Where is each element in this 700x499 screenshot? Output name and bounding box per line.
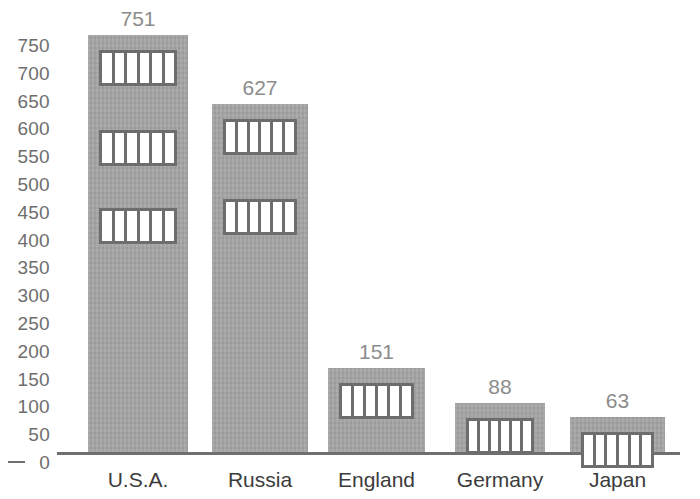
- window-pane: [115, 211, 125, 241]
- bar-value-label: 88: [455, 376, 545, 397]
- window-pane: [127, 53, 137, 83]
- window-pane: [102, 53, 112, 83]
- window-pane: [366, 386, 375, 416]
- y-axis-tick-labels: 7507006506005505004504003503002502001501…: [0, 0, 50, 499]
- window-pane: [152, 53, 162, 83]
- y-axis-tick-label: 350: [0, 258, 50, 277]
- window-pane: [642, 435, 651, 465]
- window-pane: [273, 122, 282, 152]
- y-axis-tick-label: 750: [0, 36, 50, 55]
- y-axis-tick-label: 300: [0, 286, 50, 305]
- prison-window-icon: [581, 432, 654, 468]
- y-axis-tick-label: 500: [0, 175, 50, 194]
- window-pane: [165, 211, 175, 241]
- y-axis-tick-label: 150: [0, 370, 50, 389]
- y-axis-tick-label: 450: [0, 203, 50, 222]
- y-axis-tick-label: 650: [0, 92, 50, 111]
- window-pane: [115, 53, 125, 83]
- window-pane: [165, 133, 175, 163]
- window-pane: [342, 386, 351, 416]
- y-axis-tick-label: 50: [0, 425, 50, 444]
- window-pane: [127, 133, 137, 163]
- window-pane: [469, 421, 477, 451]
- prison-window-icon: [223, 199, 297, 235]
- window-pane: [402, 386, 411, 416]
- window-pane: [261, 122, 270, 152]
- prison-window-icon: [339, 383, 414, 419]
- bar-value-label: 627: [212, 77, 308, 98]
- window-pane: [140, 53, 150, 83]
- window-pane: [491, 421, 499, 451]
- window-pane: [285, 202, 294, 232]
- window-pane: [378, 386, 387, 416]
- bar: [212, 104, 308, 452]
- window-pane: [273, 202, 282, 232]
- window-pane: [523, 421, 531, 451]
- window-pane: [140, 133, 150, 163]
- window-pane: [226, 202, 235, 232]
- window-pane: [596, 435, 605, 465]
- window-pane: [102, 211, 112, 241]
- window-pane: [152, 133, 162, 163]
- window-pane: [512, 421, 520, 451]
- window-pane: [238, 122, 247, 152]
- window-pane: [152, 211, 162, 241]
- prison-window-icon: [99, 130, 177, 166]
- window-pane: [631, 435, 640, 465]
- y-axis-tick-label: 250: [0, 314, 50, 333]
- window-pane: [140, 211, 150, 241]
- window-pane: [390, 386, 399, 416]
- bar-chart: 7507006506005505004504003503002502001501…: [0, 0, 700, 499]
- prison-window-icon: [99, 50, 177, 86]
- window-pane: [261, 202, 270, 232]
- bar-value-label: 63: [570, 390, 665, 411]
- prison-window-icon: [223, 119, 297, 155]
- window-pane: [584, 435, 593, 465]
- window-pane: [127, 211, 137, 241]
- bar-value-label: 751: [88, 8, 188, 29]
- y-axis-tick-label: 200: [0, 342, 50, 361]
- y-axis-zero-tick-mark: [8, 461, 25, 463]
- window-pane: [480, 421, 488, 451]
- window-pane: [501, 421, 509, 451]
- prison-window-icon: [99, 208, 177, 244]
- window-pane: [285, 122, 294, 152]
- window-pane: [226, 122, 235, 152]
- bar-value-label: 151: [328, 341, 425, 362]
- window-pane: [250, 202, 259, 232]
- window-pane: [607, 435, 616, 465]
- y-axis-tick-label: 700: [0, 64, 50, 83]
- window-pane: [102, 133, 112, 163]
- window-pane: [115, 133, 125, 163]
- window-pane: [238, 202, 247, 232]
- y-axis-tick-label: 400: [0, 231, 50, 250]
- y-axis-tick-label: 100: [0, 397, 50, 416]
- x-axis-category-label: Germany: [435, 469, 565, 490]
- y-axis-tick-label: 550: [0, 147, 50, 166]
- window-pane: [165, 53, 175, 83]
- x-axis-category-label: U.S.A.: [68, 469, 208, 490]
- y-axis-tick-label: 600: [0, 119, 50, 138]
- window-pane: [619, 435, 628, 465]
- prison-window-icon: [466, 418, 534, 454]
- x-axis-category-label: Japan: [550, 469, 685, 490]
- window-pane: [250, 122, 259, 152]
- window-pane: [354, 386, 363, 416]
- x-axis-category-label: England: [308, 469, 445, 490]
